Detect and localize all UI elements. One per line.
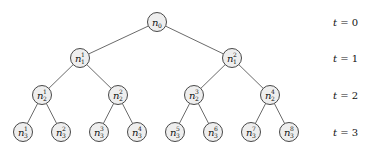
time-level-labels: t = 0t = 1t = 2t = 3: [333, 17, 358, 138]
node-subscript: 2: [271, 95, 275, 102]
node-superscript: 1: [43, 88, 47, 95]
node-subscript: 3: [290, 132, 294, 139]
node-superscript: 2: [233, 51, 237, 58]
tree-node: n12: [33, 86, 52, 105]
scenario-tree-diagram: n0n11n21n12n22n32n42n13n23n33n43n53n63n7…: [0, 0, 370, 148]
equals-sign: =: [337, 127, 352, 138]
time-value: 3: [352, 127, 358, 138]
node-subscript: 3: [214, 132, 218, 139]
tree-edge: [239, 65, 263, 89]
node-subscript: 3: [252, 132, 256, 139]
tree-edge: [46, 103, 56, 123]
tree-node: n33: [90, 123, 109, 142]
tree-node: n53: [166, 123, 185, 142]
node-subscript: 3: [24, 132, 28, 139]
tree-node: n23: [52, 123, 71, 142]
tree-edge: [87, 65, 111, 89]
node-subscript: 3: [62, 132, 66, 139]
node-subscript: 3: [100, 132, 104, 139]
node-superscript: 2: [62, 125, 66, 132]
tree-edge: [201, 65, 225, 89]
tree-node: n73: [242, 123, 261, 142]
node-superscript: 6: [214, 125, 218, 132]
equals-sign: =: [337, 53, 352, 64]
time-level-label: t = 1: [333, 53, 358, 64]
node-superscript: 5: [176, 125, 180, 132]
node-superscript: 4: [271, 88, 275, 95]
node-subscript: 0: [158, 22, 162, 29]
node-superscript: 3: [100, 125, 104, 132]
time-level-label: t = 3: [333, 127, 358, 138]
tree-node: n43: [128, 123, 147, 142]
node-subscript: 2: [43, 95, 47, 102]
time-value: 2: [352, 90, 358, 101]
equals-sign: =: [337, 90, 352, 101]
tree-edge: [274, 103, 284, 123]
node-subscript: 1: [81, 58, 85, 65]
node-subscript: 2: [119, 95, 123, 102]
tree-node: n11: [71, 49, 90, 68]
node-subscript: 3: [176, 132, 180, 139]
tree-edges: [27, 26, 284, 124]
node-subscript: 3: [138, 132, 142, 139]
tree-node: n63: [204, 123, 223, 142]
node-superscript: 7: [252, 125, 256, 132]
time-level-label: t = 0: [333, 17, 358, 28]
tree-edge: [122, 103, 132, 123]
node-superscript: 1: [24, 125, 28, 132]
time-value: 1: [352, 53, 358, 64]
tree-edge: [49, 65, 73, 89]
tree-edge: [166, 26, 224, 54]
time-level-label: t = 2: [333, 90, 358, 101]
tree-edge: [27, 103, 37, 123]
equals-sign: =: [337, 17, 352, 28]
node-subscript: 2: [195, 95, 199, 102]
node-subscript: 1: [233, 58, 237, 65]
tree-edge: [179, 103, 189, 123]
tree-node: n22: [109, 86, 128, 105]
tree-edge: [103, 103, 113, 123]
tree-node: n0: [148, 13, 167, 32]
time-value: 0: [352, 17, 358, 28]
tree-edge: [255, 103, 265, 123]
node-superscript: 1: [81, 51, 85, 58]
tree-node: n32: [185, 86, 204, 105]
tree-node: n13: [14, 123, 33, 142]
tree-node: n42: [261, 86, 280, 105]
node-superscript: 3: [195, 88, 199, 95]
tree-node: n83: [280, 123, 299, 142]
node-superscript: 2: [119, 88, 123, 95]
node-superscript: 4: [138, 125, 142, 132]
node-superscript: 8: [290, 125, 294, 132]
tree-edge: [198, 103, 208, 123]
tree-node: n21: [223, 49, 242, 68]
tree-edge: [89, 26, 149, 54]
